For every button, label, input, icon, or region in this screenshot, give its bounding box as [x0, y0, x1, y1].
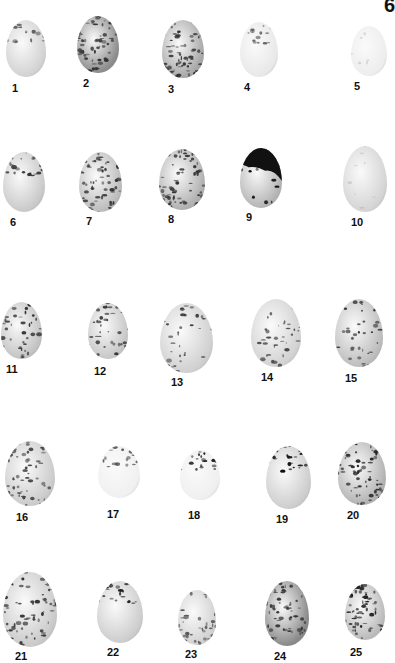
egg-label-9: 9	[246, 211, 252, 223]
egg-label-2: 2	[83, 77, 89, 89]
egg-13	[160, 303, 213, 373]
egg-8	[159, 149, 205, 210]
egg-label-1: 1	[12, 82, 18, 94]
egg-label-3: 3	[168, 83, 174, 95]
egg-label-19: 19	[276, 513, 288, 525]
egg-label-18: 18	[188, 509, 200, 521]
egg-5	[351, 26, 387, 76]
egg-label-20: 20	[347, 509, 359, 521]
egg-19	[266, 446, 311, 509]
egg-2	[77, 16, 119, 73]
egg-label-21: 21	[15, 650, 27, 662]
egg-9	[240, 148, 282, 208]
egg-label-8: 8	[168, 213, 174, 225]
egg-label-7: 7	[86, 215, 92, 227]
egg-label-15: 15	[345, 372, 357, 384]
egg-16	[5, 441, 55, 506]
egg-label-25: 25	[350, 646, 362, 658]
egg-label-10: 10	[351, 216, 363, 228]
egg-25	[345, 584, 385, 640]
egg-24	[265, 581, 309, 646]
egg-4	[240, 22, 278, 77]
egg-20	[338, 442, 386, 505]
egg-label-24: 24	[274, 650, 286, 662]
egg-3	[162, 20, 204, 78]
egg-18	[180, 450, 220, 500]
egg-label-22: 22	[107, 646, 119, 658]
egg-label-13: 13	[171, 376, 183, 388]
egg-21	[3, 572, 57, 647]
egg-15	[335, 299, 383, 367]
egg-6	[3, 152, 45, 212]
egg-1	[6, 20, 46, 77]
egg-14	[251, 299, 301, 367]
egg-22	[97, 581, 143, 643]
egg-label-6: 6	[10, 216, 16, 228]
egg-12	[88, 303, 128, 359]
egg-17	[98, 446, 140, 498]
egg-10	[343, 146, 387, 212]
egg-label-12: 12	[94, 365, 106, 377]
egg-label-14: 14	[261, 371, 273, 383]
plate-number: 6	[384, 0, 395, 17]
egg-label-23: 23	[185, 648, 197, 660]
egg-label-5: 5	[354, 80, 360, 92]
egg-label-4: 4	[244, 81, 250, 93]
egg-7	[79, 152, 122, 212]
egg-11	[1, 302, 42, 359]
egg-label-17: 17	[107, 508, 119, 520]
egg-23	[178, 590, 216, 645]
egg-label-16: 16	[16, 511, 28, 523]
egg-label-11: 11	[6, 363, 18, 375]
